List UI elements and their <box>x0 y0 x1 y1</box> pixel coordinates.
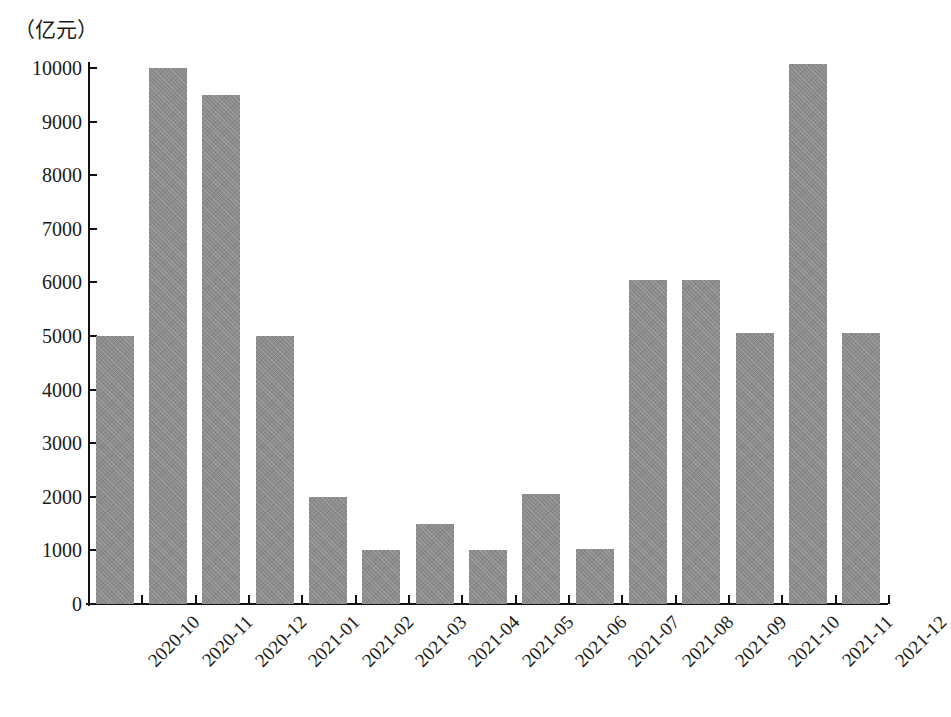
bar <box>149 68 187 604</box>
x-axis-tick-label: 2020-12 <box>252 612 310 670</box>
y-axis-tick-label: 3000 <box>6 433 82 453</box>
bar <box>202 95 240 604</box>
x-axis-tick-label: 2021-03 <box>412 612 470 670</box>
x-axis-tick-label: 2021-12 <box>892 612 950 670</box>
bar <box>469 550 507 604</box>
y-axis-tick-label: 5000 <box>6 326 82 346</box>
x-axis-tick-label: 2020-10 <box>145 612 203 670</box>
x-axis-tick-label: 2021-02 <box>358 612 416 670</box>
y-axis-tick-label: 8000 <box>6 165 82 185</box>
x-axis-tick-mark <box>888 595 890 604</box>
bar <box>96 336 134 604</box>
y-axis-unit-label: （亿元） <box>14 20 98 41</box>
bar <box>789 64 827 604</box>
y-axis-tick-label: 9000 <box>6 112 82 132</box>
bar <box>522 494 560 604</box>
bar <box>416 524 454 604</box>
x-axis-tick-label: 2021-04 <box>465 612 523 670</box>
bar <box>736 333 774 604</box>
x-axis-tick-label: 2021-01 <box>305 612 363 670</box>
bar <box>362 550 400 604</box>
bar <box>256 336 294 604</box>
x-axis-tick-label: 2021-11 <box>838 612 896 670</box>
y-axis-tick-label: 10000 <box>6 58 82 78</box>
x-axis-tick-label: 2021-06 <box>572 612 630 670</box>
plot-area <box>88 68 888 604</box>
x-axis-tick-label: 2021-08 <box>678 612 736 670</box>
bar <box>576 549 614 604</box>
x-axis-tick-label: 2021-09 <box>732 612 790 670</box>
y-axis-tick-label: 4000 <box>6 380 82 400</box>
y-axis-tick-label: 1000 <box>6 540 82 560</box>
y-axis-tick-label: 0 <box>6 594 82 614</box>
x-axis-tick-label: 2021-10 <box>785 612 843 670</box>
bar <box>309 497 347 604</box>
bar <box>682 280 720 604</box>
x-axis-tick-label: 2020-11 <box>198 612 256 670</box>
figure-caption <box>0 706 919 717</box>
bar <box>629 280 667 604</box>
x-axis-tick-label: 2021-07 <box>625 612 683 670</box>
y-axis-tick-label: 6000 <box>6 272 82 292</box>
y-axis-tick-label: 7000 <box>6 219 82 239</box>
bar <box>842 333 880 604</box>
y-axis-tick-label: 2000 <box>6 487 82 507</box>
x-axis-tick-label: 2021-05 <box>518 612 576 670</box>
